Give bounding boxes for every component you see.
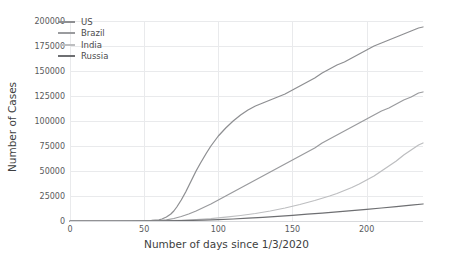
y-tick-label-0: 0 (60, 217, 65, 226)
y-tick-label-1: 25000 (40, 192, 65, 201)
y-tick-label-2: 50000 (40, 167, 65, 176)
legend-item-russia[interactable]: Russia (58, 51, 120, 63)
y-axis-label: Number of Cases (6, 37, 18, 217)
legend-swatch-russia (58, 55, 75, 57)
y-tick-label-3: 75000 (40, 142, 65, 151)
legend-label: Brazil (81, 29, 105, 38)
x-tick-label-3: 150 (285, 225, 300, 234)
x-tick-label-1: 50 (139, 225, 149, 234)
legend-item-us[interactable]: US (58, 16, 120, 28)
chart-figure: 050100150200 025000500007500010000012500… (0, 0, 453, 265)
legend-label: Russia (81, 52, 108, 61)
legend-item-brazil[interactable]: Brazil (58, 28, 120, 40)
x-tick-label-0: 0 (67, 225, 72, 234)
legend-label: US (81, 18, 93, 27)
x-axis-label: Number of days since 1/3/2020 (0, 238, 453, 250)
legend-label: India (81, 41, 102, 50)
y-tick-label-4: 100000 (34, 117, 65, 126)
legend-item-india[interactable]: India (58, 39, 120, 51)
series-line-us (70, 27, 423, 221)
plot-area (70, 21, 423, 221)
x-axis-line (70, 221, 423, 222)
legend-swatch-us (58, 21, 75, 23)
y-tick-label-5: 125000 (34, 92, 65, 101)
legend-swatch-india (58, 44, 75, 46)
legend-swatch-brazil (58, 32, 75, 34)
series-line-russia (70, 204, 423, 221)
x-tick-label-2: 100 (211, 225, 226, 234)
series-layer (70, 21, 423, 221)
x-tick-label-4: 200 (359, 225, 374, 234)
y-tick-label-6: 150000 (34, 67, 65, 76)
chart-legend: USBrazilIndiaRussia (58, 16, 120, 62)
